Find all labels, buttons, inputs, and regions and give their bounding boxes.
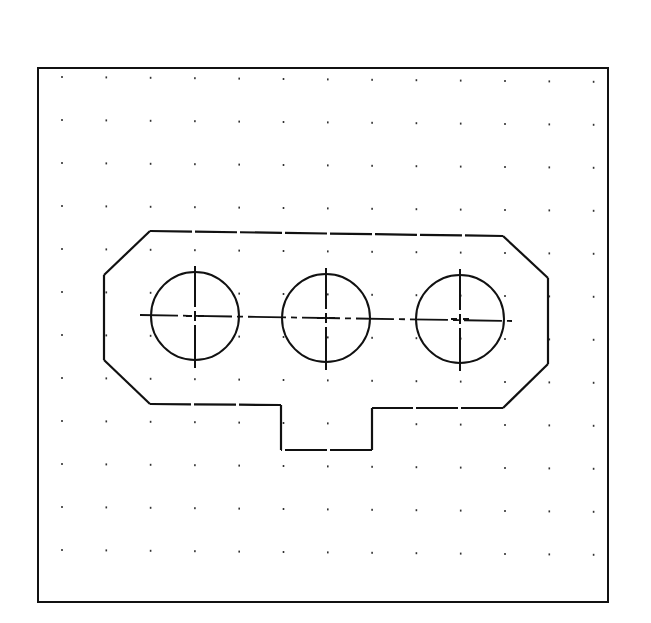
grid-dot xyxy=(593,425,595,427)
grid-dot xyxy=(238,250,240,252)
grid-dot xyxy=(327,422,329,424)
grid-dot xyxy=(416,380,418,382)
grid-dot xyxy=(238,336,240,338)
grid-dot xyxy=(150,292,152,294)
grid-dot xyxy=(593,382,595,384)
grid-dot xyxy=(460,553,462,555)
grid-dot xyxy=(504,80,506,82)
grid-dot xyxy=(238,465,240,467)
grid-dot xyxy=(549,553,551,555)
grid-dot xyxy=(416,294,418,296)
grid-dot xyxy=(238,78,240,80)
grid-dot xyxy=(371,509,373,511)
grid-dot xyxy=(150,163,152,165)
grid-dot xyxy=(504,467,506,469)
grid-dot xyxy=(371,79,373,81)
outline-edge xyxy=(150,404,281,405)
grid-dot xyxy=(460,467,462,469)
grid-dot xyxy=(61,506,63,508)
grid-dot xyxy=(460,166,462,168)
grid-dot xyxy=(371,251,373,253)
grid-dot xyxy=(150,550,152,552)
grid-dot xyxy=(61,205,63,207)
grid-dot xyxy=(549,80,551,82)
grid-dot xyxy=(460,80,462,82)
grid-dot xyxy=(416,509,418,511)
grid-dot xyxy=(327,121,329,123)
grid-dot xyxy=(150,249,152,251)
grid-dot xyxy=(416,251,418,253)
grid-dot xyxy=(460,424,462,426)
grid-dot xyxy=(150,421,152,423)
grid-dot xyxy=(327,508,329,510)
grid-dot xyxy=(283,121,285,123)
grid-dot xyxy=(61,119,63,121)
grid-dot xyxy=(549,467,551,469)
grid-dot xyxy=(61,291,63,293)
grid-dot xyxy=(549,209,551,211)
grid-dot xyxy=(327,293,329,295)
grid-dot xyxy=(416,466,418,468)
grid-dot xyxy=(194,550,196,552)
grid-dot xyxy=(460,123,462,125)
grid-dot xyxy=(106,76,108,78)
grid-dot xyxy=(371,294,373,296)
grid-dot xyxy=(61,76,63,78)
grid-dot xyxy=(416,337,418,339)
grid-dot xyxy=(283,551,285,553)
grid-dot xyxy=(194,77,196,79)
grid-dot xyxy=(194,464,196,466)
grid-dot xyxy=(194,163,196,165)
grid-dot xyxy=(238,121,240,123)
grid-dot xyxy=(61,377,63,379)
grid-dot xyxy=(106,291,108,293)
grid-dot xyxy=(504,553,506,555)
grid-dot xyxy=(416,208,418,210)
grid-dot xyxy=(593,296,595,298)
grid-dot xyxy=(549,510,551,512)
grid-dot xyxy=(150,378,152,380)
grid-dot xyxy=(327,465,329,467)
grid-dot xyxy=(238,508,240,510)
grid-dot xyxy=(549,424,551,426)
grid-dot xyxy=(194,421,196,423)
grid-dot xyxy=(61,162,63,164)
grid-dot xyxy=(327,207,329,209)
grid-dot xyxy=(549,252,551,254)
grid-dot xyxy=(106,420,108,422)
grid-dot xyxy=(460,381,462,383)
grid-dot xyxy=(416,165,418,167)
grid-dot xyxy=(371,208,373,210)
grid-dot xyxy=(593,210,595,212)
grid-dot xyxy=(593,253,595,255)
grid-dot xyxy=(106,549,108,551)
grid-dot xyxy=(106,205,108,207)
grid-dot xyxy=(504,209,506,211)
grid-dot xyxy=(283,422,285,424)
grid-dot xyxy=(416,423,418,425)
grid-dot xyxy=(371,122,373,124)
grid-dot xyxy=(106,162,108,164)
outline-edge xyxy=(104,360,150,404)
grid-dot xyxy=(327,379,329,381)
grid-dot xyxy=(504,166,506,168)
drawing-frame xyxy=(38,68,608,602)
grid-dot xyxy=(460,252,462,254)
grid-dot xyxy=(593,339,595,341)
grid-dot xyxy=(327,551,329,553)
grid-dot xyxy=(504,424,506,426)
grid-dot xyxy=(106,334,108,336)
grid-dot xyxy=(194,507,196,509)
outline-edge xyxy=(150,231,503,236)
grid-dot xyxy=(194,249,196,251)
grid-dot xyxy=(106,506,108,508)
grid-dot xyxy=(150,120,152,122)
grid-dot xyxy=(460,510,462,512)
grid-dot xyxy=(504,381,506,383)
grid-dot xyxy=(238,164,240,166)
grid-dot xyxy=(194,120,196,122)
grid-dot xyxy=(194,378,196,380)
grid-dot xyxy=(61,420,63,422)
grid-dot xyxy=(504,338,506,340)
grid-dot xyxy=(238,293,240,295)
